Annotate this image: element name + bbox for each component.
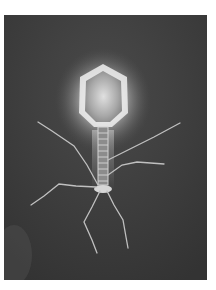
phage-tail	[98, 127, 108, 185]
base-plate	[94, 185, 112, 193]
phage-illustration	[4, 15, 207, 280]
micrograph-frame	[4, 15, 207, 280]
